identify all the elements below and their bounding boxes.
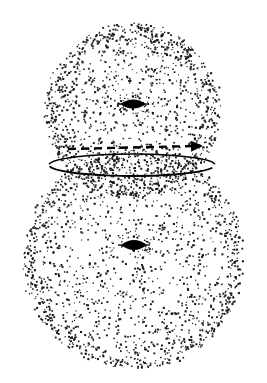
figure-container: [0, 0, 267, 383]
point-cloud-scatter-plot: [0, 0, 267, 383]
